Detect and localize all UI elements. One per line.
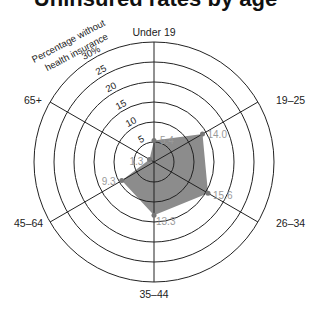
radar-chart: 5.414.015.613.39.31.3Under 1919–2526–343…	[0, 0, 311, 311]
category-label: 19–25	[276, 94, 305, 106]
value-label: 14.0	[207, 129, 227, 140]
data-point	[147, 157, 152, 162]
data-point	[119, 178, 124, 183]
value-label: 5.4	[160, 135, 174, 146]
value-label: 1.3	[129, 156, 143, 167]
category-label: 35–44	[139, 288, 168, 300]
data-point	[200, 132, 205, 137]
data-point	[152, 138, 157, 143]
category-label: 26–34	[276, 217, 305, 229]
axis-spoke	[154, 102, 258, 162]
category-label: 65+	[24, 94, 42, 106]
axis-spoke	[50, 102, 154, 162]
category-label: 45–64	[14, 217, 43, 229]
category-label: Under 19	[132, 26, 175, 38]
data-point	[206, 191, 211, 196]
ring-label: 5	[136, 133, 146, 145]
value-label: 9.3	[102, 176, 116, 187]
value-label: 15.6	[213, 190, 233, 201]
value-label: 13.3	[156, 216, 176, 227]
